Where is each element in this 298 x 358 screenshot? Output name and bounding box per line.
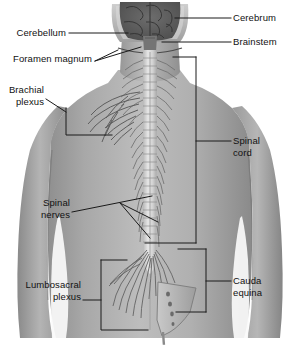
label-cerebrum: Cerebrum xyxy=(233,12,276,24)
label-brachial-plexus-line1: Brachial xyxy=(0,84,44,96)
label-cauda-equina: Cauda equina xyxy=(233,275,262,298)
label-brachial-plexus-line2: plexus xyxy=(0,96,44,108)
label-lumbosacral-plexus: Lumbosacral plexus xyxy=(0,279,81,302)
label-spinal-cord-line1: Spinal xyxy=(233,135,260,147)
label-foramen-magnum: Foramen magnum xyxy=(0,53,92,65)
label-spinal-cord: Spinal cord xyxy=(233,135,260,158)
label-spinal-cord-line2: cord xyxy=(233,147,260,159)
anatomical-diagram: Cerebrum Brainstem Cerebellum Foramen ma… xyxy=(0,0,298,358)
label-brachial-plexus: Brachial plexus xyxy=(0,84,44,107)
label-spinal-nerves-line1: Spinal xyxy=(0,197,70,209)
label-spinal-nerves-line2: nerves xyxy=(0,209,70,221)
label-spinal-nerves: Spinal nerves xyxy=(0,197,70,220)
label-cauda-equina-line2: equina xyxy=(233,287,262,299)
label-brainstem: Brainstem xyxy=(233,36,277,48)
label-lumbosacral-plexus-line2: plexus xyxy=(0,291,81,303)
label-cauda-equina-line1: Cauda xyxy=(233,275,262,287)
label-cerebellum: Cerebellum xyxy=(0,27,66,39)
label-lumbosacral-plexus-line1: Lumbosacral xyxy=(0,279,81,291)
